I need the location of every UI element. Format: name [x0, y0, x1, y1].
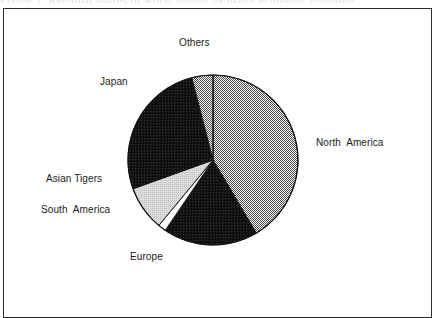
pie-label-south-america: South America [41, 204, 110, 215]
pie-label-japan: Japan [100, 76, 128, 87]
pie-label-north-america: North America [316, 137, 384, 148]
pie-label-europe: Europe [130, 251, 163, 262]
pie-slices [128, 75, 298, 245]
pie-label-others: Others [179, 37, 210, 48]
pie-label-asian-tigers: Asian Tigers [46, 173, 102, 184]
